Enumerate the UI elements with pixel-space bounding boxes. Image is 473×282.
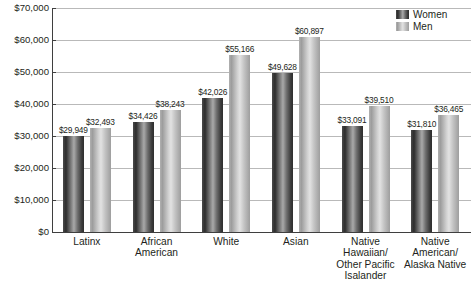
y-tick-mark: [52, 72, 56, 73]
bar-value-label: $31,810: [400, 119, 444, 129]
bar-value-label: $60,897: [287, 26, 331, 36]
x-category-label-line: Latinx: [52, 236, 122, 247]
legend-label-women: Women: [413, 9, 447, 20]
bar-men: [299, 37, 320, 232]
x-category-label: AfricanAmerican: [122, 236, 192, 259]
y-tick-label: $70,000: [1, 2, 49, 13]
bar-men: [438, 115, 459, 232]
bars-layer: $29,949$32,493$34,426$38,243$42,026$55,1…: [52, 8, 470, 232]
bar-value-label: $55,166: [218, 44, 262, 54]
bar-value-label: $39,510: [357, 95, 401, 105]
bar-value-label: $38,243: [148, 99, 192, 109]
x-category-label-line: Native: [400, 236, 470, 247]
x-category-label: Asian: [261, 236, 331, 247]
x-category-label: White: [191, 236, 261, 247]
chart-legend: Women Men: [396, 9, 470, 33]
y-tick-label: $10,000: [1, 194, 49, 205]
y-tick-label: $40,000: [1, 98, 49, 109]
y-tick-label: $60,000: [1, 34, 49, 45]
bar-value-label: $36,465: [427, 104, 471, 114]
x-category-label: NativeHawaiian/Other PacificIsalander: [331, 236, 401, 282]
y-tick-label: $50,000: [1, 66, 49, 77]
bar-value-label: $34,426: [121, 111, 165, 121]
y-axis: $70,000$60,000$50,000$40,000$30,000$20,0…: [0, 0, 49, 278]
y-tick-mark: [52, 200, 56, 201]
bar-women: [411, 130, 432, 232]
bar-value-label: $49,628: [260, 62, 304, 72]
x-category-label: NativeAmerican/Alaska Native: [400, 236, 470, 270]
y-tick-mark: [52, 104, 56, 105]
y-tick-mark: [52, 40, 56, 41]
x-category-label-line: American/: [400, 247, 470, 258]
bar-value-label: $42,026: [191, 87, 235, 97]
x-category-label-line: Hawaiian/: [331, 247, 401, 258]
x-category-label-line: American: [122, 247, 192, 258]
bar-women: [342, 126, 363, 232]
y-tick-label: $0: [1, 226, 49, 237]
x-category-label-line: Other Pacific: [331, 259, 401, 270]
bar-men: [369, 106, 390, 232]
x-category-label-line: Asian: [261, 236, 331, 247]
x-category-label-line: White: [191, 236, 261, 247]
bar-value-label: $33,091: [330, 115, 374, 125]
x-category-label-line: African: [122, 236, 192, 247]
bar-women: [202, 98, 223, 232]
bar-women: [272, 73, 293, 232]
y-tick-mark: [52, 8, 56, 9]
legend-label-men: Men: [413, 21, 432, 32]
bar-men: [160, 110, 181, 232]
y-tick-mark: [52, 168, 56, 169]
x-category-label-line: Isalander: [331, 270, 401, 281]
legend-item-men: Men: [396, 21, 470, 32]
legend-item-women: Women: [396, 9, 470, 20]
legend-swatch-men-icon: [396, 22, 409, 31]
legend-swatch-women-icon: [396, 10, 409, 19]
bar-women: [133, 122, 154, 232]
bar-value-label: $32,493: [78, 117, 122, 127]
y-tick-label: $30,000: [1, 130, 49, 141]
x-category-label-line: Alaska Native: [400, 259, 470, 270]
chart-title: Median Annual Earnings by Race and Ethni…: [52, 0, 452, 4]
bar-men: [229, 55, 250, 232]
x-category-label: Latinx: [52, 236, 122, 247]
y-tick-mark: [52, 232, 56, 233]
bar-women: [63, 136, 84, 232]
x-category-label-line: Native: [331, 236, 401, 247]
y-tick-label: $20,000: [1, 162, 49, 173]
y-tick-mark: [52, 136, 56, 137]
bar-men: [90, 128, 111, 232]
